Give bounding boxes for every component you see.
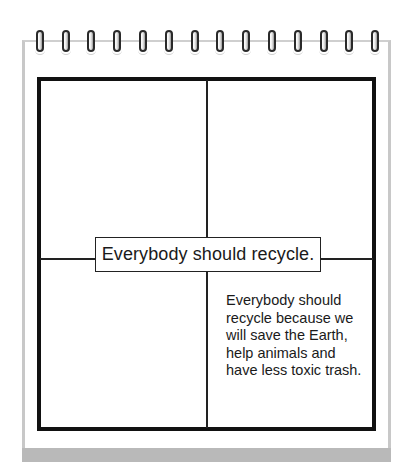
spiral-ring-icon: [139, 30, 147, 52]
spiral-ring-icon: [345, 30, 353, 52]
spiral-ring-icon: [294, 30, 302, 52]
spiral-ring-icon: [36, 30, 44, 52]
spiral-ring-icon: [216, 30, 224, 52]
spiral-ring-icon: [165, 30, 173, 52]
spiral-binding: [0, 0, 406, 60]
center-topic-text: Everybody should recycle.: [102, 244, 315, 265]
spiral-ring-icon: [113, 30, 121, 52]
spiral-ring-icon: [242, 30, 250, 52]
spiral-ring-icon: [268, 30, 276, 52]
center-topic-box: Everybody should recycle.: [95, 237, 321, 272]
spiral-ring-icon: [320, 30, 328, 52]
spiral-ring-icon: [371, 30, 379, 52]
spiral-ring-icon: [62, 30, 70, 52]
spiral-ring-icon: [87, 30, 95, 52]
bottom-right-quadrant-text: Everybody should recycle because we will…: [226, 292, 371, 380]
spiral-ring-icon: [191, 30, 199, 52]
page-shadow: [22, 448, 391, 462]
